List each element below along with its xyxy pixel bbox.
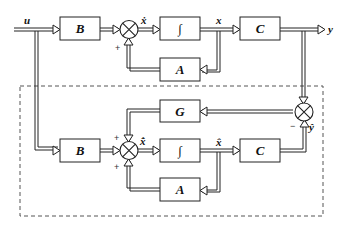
signal-y-hat: ŷ — [307, 121, 314, 133]
observer-block-diagram: B ∫ C A G B ∫ C A u y x ẋ x̂ x̂̇ ŷ + + +… — [0, 0, 348, 231]
signal-x: x — [215, 14, 222, 26]
sum-junction-observer — [120, 142, 138, 160]
sign-plus-observer-top: + — [114, 133, 119, 143]
sign-plus-plant: + — [115, 43, 120, 53]
signal-x-hat: x̂ — [215, 136, 222, 148]
signal-x-hat-dot: x̂̇ — [139, 135, 146, 147]
label-observer-A: A — [175, 182, 185, 197]
sum-junction-plant — [120, 21, 138, 39]
sum-junction-error — [295, 103, 313, 121]
label-G: G — [175, 104, 185, 119]
signal-x-dot: ẋ — [140, 14, 147, 26]
signal-y: y — [326, 23, 333, 35]
label-A: A — [175, 62, 185, 77]
label-C: C — [256, 21, 265, 36]
label-observer-B: B — [75, 143, 85, 158]
sign-plus-observer-bottom: + — [114, 162, 119, 172]
plant-signal-lines — [14, 28, 323, 150]
signal-u: u — [24, 14, 30, 26]
sign-minus-error: − — [290, 121, 295, 131]
label-B: B — [75, 21, 85, 36]
label-observer-C: C — [256, 143, 265, 158]
